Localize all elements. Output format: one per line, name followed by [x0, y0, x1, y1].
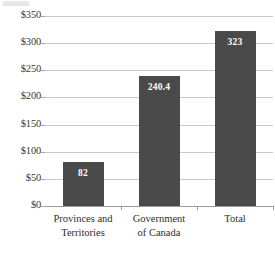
y-axis-tick-label: $300 [1, 37, 41, 48]
category-label-line: of Canada [121, 226, 197, 240]
y-axis-tick-mark [41, 97, 45, 98]
x-axis-category-label: Governmentof Canada [121, 212, 197, 240]
x-axis-category-label: Total [197, 212, 273, 226]
y-axis-tick-label: $0 [1, 200, 41, 211]
bar-value-label: 82 [63, 169, 104, 179]
y-axis-tick-label: $100 [1, 146, 41, 157]
x-axis-tick-mark [273, 206, 274, 210]
bar-value-label: 240.4 [139, 83, 180, 93]
x-axis-baseline [45, 206, 273, 207]
category-label-line: Provinces and [53, 213, 112, 224]
scan-artifact [3, 1, 29, 6]
gridline [45, 16, 273, 17]
category-label-line: Territories [45, 226, 121, 240]
x-axis-category-labels: Provinces andTerritoriesGovernmentof Can… [45, 212, 273, 254]
y-axis-tick-label: $200 [1, 91, 41, 102]
plot-area: 82240.4323 [45, 16, 273, 206]
x-axis-category-label: Provinces andTerritories [45, 212, 121, 240]
bar: 82 [63, 162, 104, 207]
y-axis-tick-mark [41, 70, 45, 71]
x-axis-tick-mark [197, 206, 198, 210]
y-axis-tick-mark [41, 179, 45, 180]
bar: 240.4 [139, 76, 180, 207]
category-label-line: Government [133, 213, 186, 224]
y-axis-tick-label: $350 [1, 10, 41, 21]
y-axis-tick-mark [41, 43, 45, 44]
y-axis-tick-label: $250 [1, 64, 41, 75]
y-axis-tick-mark [41, 16, 45, 17]
y-axis-tick-label: $150 [1, 119, 41, 130]
y-axis-tick-mark [41, 206, 45, 207]
x-axis-tick-mark [121, 206, 122, 210]
bar-chart: $0$50$100$150$200$250$300$350 82240.4323… [0, 0, 275, 257]
category-label-line: Total [224, 213, 245, 224]
y-axis-tick-label: $50 [1, 173, 41, 184]
bar-value-label: 323 [215, 38, 256, 48]
y-axis: $0$50$100$150$200$250$300$350 [0, 16, 41, 206]
y-axis-tick-mark [41, 152, 45, 153]
bar: 323 [215, 31, 256, 206]
y-axis-tick-mark [41, 125, 45, 126]
